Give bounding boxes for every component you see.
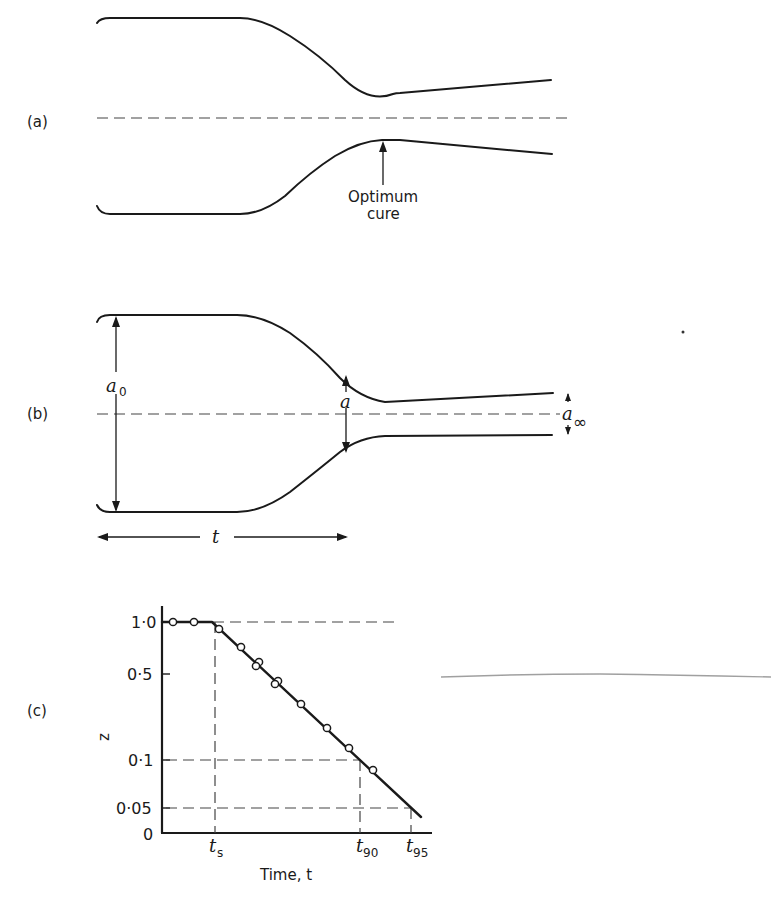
y-tick-0-1: 0·1 [128, 751, 153, 770]
panel-a-upper-curve [97, 18, 551, 97]
panel-a-label: (a) [27, 113, 48, 131]
x-tick-ts-symbol: t [209, 835, 217, 856]
fitted-line [162, 622, 421, 817]
x-tick-ts-subscript: s [217, 846, 223, 860]
x-tick-t95-subscript: 95 [413, 846, 428, 860]
a-symbol: a [340, 391, 351, 412]
a0-subscript: 0 [119, 385, 127, 399]
cure-diagram: (a) Optimum cure (b) a 0 a [0, 0, 771, 900]
optimum-label: Optimum [348, 188, 418, 206]
data-points [169, 618, 376, 773]
panel-b-upper-curve [97, 315, 553, 402]
panel-a: (a) Optimum cure [27, 18, 570, 223]
time-dimension-arrow [97, 533, 348, 541]
panel-c-label: (c) [27, 702, 47, 720]
panel-b: (b) a 0 a a ∞ [27, 315, 685, 547]
y-tick-0: 0 [143, 825, 153, 844]
t-symbol: t [212, 526, 220, 547]
y-tick-0-05: 0·05 [116, 799, 152, 818]
scan-artifact-streak [441, 674, 771, 677]
x-tick-t90-subscript: 90 [363, 846, 378, 860]
optimum-cure-arrow [379, 141, 387, 185]
a0-symbol: a [106, 375, 117, 396]
panel-a-lower-curve [97, 140, 552, 214]
ainf-subscript: ∞ [573, 412, 587, 432]
y-tick-0-5: 0·5 [127, 665, 152, 684]
stray-dot [682, 331, 685, 334]
x-axis-label: Time, t [259, 866, 312, 884]
ainf-symbol: a [562, 403, 573, 424]
y-tick-1-0: 1·0 [131, 613, 156, 632]
panel-b-label: (b) [27, 405, 48, 423]
cure-label: cure [367, 205, 400, 223]
panel-b-lower-curve [97, 435, 552, 512]
panel-c-chart: (c) z 1·0 0·5 0·1 0·05 0 [27, 606, 432, 884]
y-axis-label: z [96, 733, 114, 741]
